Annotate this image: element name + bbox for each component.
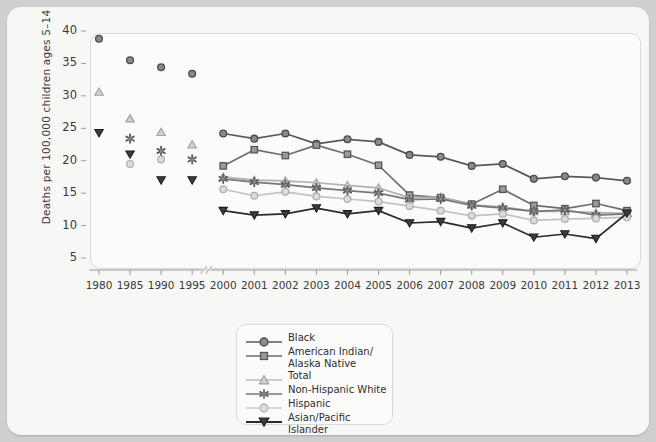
legend-label: Total	[284, 370, 311, 382]
legend-item-non-hispanic-white[interactable]: Non-Hispanic White	[237, 384, 392, 397]
legend-label: American Indian/	[288, 346, 373, 357]
legend-key-square-icon	[244, 347, 284, 359]
chart-card: Deaths per 100,000 children ages 5–14 51…	[7, 7, 649, 435]
series-1	[220, 142, 630, 214]
legend-item-total[interactable]: Total	[237, 370, 392, 383]
series-2	[95, 88, 631, 216]
legend-label: Non-Hispanic White	[284, 384, 386, 396]
legend-label: Hispanic	[284, 398, 331, 410]
legend-key-triangle-down-icon	[244, 413, 284, 425]
legend-label: Asian/Pacific Islander	[284, 412, 392, 435]
legend-key-star-icon	[244, 385, 284, 397]
chart-legend: Black American Indian/Alaska Native Tota…	[236, 324, 393, 425]
legend-item-american-indian-alaska-native[interactable]: American Indian/Alaska Native	[237, 346, 392, 369]
legend-key-triangle-up-icon	[244, 371, 284, 383]
legend-item-asian-pacific-islander[interactable]: Asian/Pacific Islander	[237, 412, 392, 435]
series-0	[96, 35, 631, 184]
legend-key-circle-icon	[244, 333, 284, 345]
legend-item-hispanic[interactable]: Hispanic	[237, 398, 392, 411]
legend-label: Black	[284, 332, 315, 344]
legend-label-line2: Alaska Native	[288, 358, 356, 369]
legend-item-black[interactable]: Black	[237, 332, 392, 345]
legend-key-circle-light-icon	[244, 399, 284, 411]
chart-screenshot: Deaths per 100,000 children ages 5–14 51…	[0, 0, 656, 442]
